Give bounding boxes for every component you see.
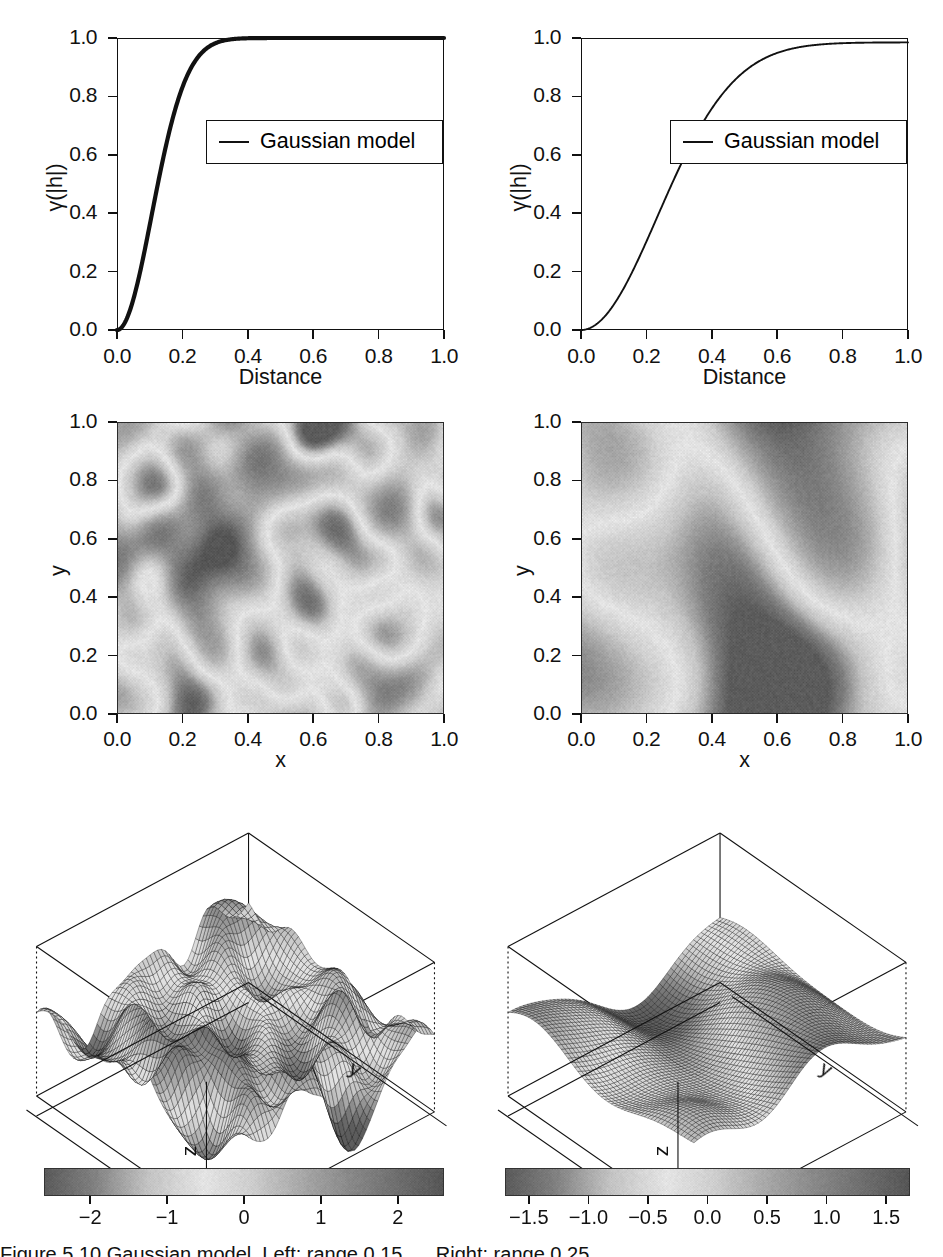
- colorbar-tick-mark: [885, 1196, 886, 1204]
- colorbar-tick-mark: [397, 1196, 398, 1204]
- variogram-left-panel: Gaussian model Distance γ(|h|) 0.00.20.4…: [0, 0, 471, 400]
- colorbar-tick-mark: [707, 1196, 708, 1204]
- x-axis-title: x: [117, 748, 444, 773]
- y-tick-label: 0.6: [499, 526, 561, 550]
- x-tick-mark: [776, 714, 778, 723]
- x-tick-label: 1.0: [872, 344, 943, 368]
- x-tick-label: 0.4: [676, 727, 748, 751]
- colorbar-tick-mark: [320, 1196, 321, 1204]
- y-tick-mark: [108, 655, 117, 657]
- y-tick-label: 1.0: [35, 409, 97, 433]
- x-tick-mark: [907, 330, 909, 339]
- x-tick-label: 0.6: [741, 727, 813, 751]
- y-tick-mark: [108, 37, 117, 39]
- x-tick-mark: [378, 330, 380, 339]
- y-tick-label: 0.4: [35, 200, 97, 224]
- x-tick-label: 0.0: [545, 727, 617, 751]
- x-tick-mark: [776, 330, 778, 339]
- x-tick-label: 0.6: [277, 344, 349, 368]
- variogram-line: [117, 38, 444, 330]
- x-tick-label: 0.8: [343, 344, 415, 368]
- colorbar-tick-mark: [166, 1196, 167, 1204]
- y-tick-label: 0.4: [499, 584, 561, 608]
- colorbar-tick-mark: [826, 1196, 827, 1204]
- y-tick-mark: [572, 655, 581, 657]
- y-tick-label: 0.6: [499, 142, 561, 166]
- x-tick-mark: [842, 714, 844, 723]
- x-tick-label: 0.8: [807, 727, 879, 751]
- x-tick-mark: [711, 330, 713, 339]
- x-tick-mark: [580, 714, 582, 723]
- legend-label: Gaussian model: [260, 131, 415, 153]
- x-tick-label: 0.6: [277, 727, 349, 751]
- y-tick-mark: [572, 421, 581, 423]
- variogram-line: [581, 42, 908, 330]
- colorbar-tick-label: 0: [204, 1206, 284, 1229]
- colorbar-tick-mark: [528, 1196, 529, 1204]
- y-tick-label: 0.0: [35, 317, 97, 341]
- y-tick-label: 0.0: [35, 701, 97, 725]
- colorbar-tick-label: 1.5: [846, 1206, 926, 1229]
- y-tick-label: 0.0: [499, 701, 561, 725]
- x-tick-mark: [580, 330, 582, 339]
- x-tick-mark: [711, 714, 713, 723]
- y-tick-mark: [108, 212, 117, 214]
- colorbar-tick-label: −2: [50, 1206, 130, 1229]
- x-tick-mark: [646, 330, 648, 339]
- y-tick-mark: [108, 480, 117, 482]
- y-tick-label: 1.0: [499, 25, 561, 49]
- x-tick-label: 0.4: [212, 727, 284, 751]
- y-tick-mark: [108, 596, 117, 598]
- colorbar-tick-label: 2: [358, 1206, 438, 1229]
- y-tick-mark: [572, 154, 581, 156]
- x-tick-mark: [907, 714, 909, 723]
- z-axis-title: z: [178, 1145, 202, 1156]
- x-tick-label: 0.4: [676, 344, 748, 368]
- x-tick-mark: [443, 714, 445, 723]
- surface-plot: [0, 790, 471, 1190]
- x-axis-title: Distance: [117, 365, 444, 390]
- y-tick-label: 0.2: [35, 259, 97, 283]
- x-tick-label: 0.2: [146, 344, 218, 368]
- legend-line-sample: [219, 141, 249, 143]
- legend-box: Gaussian model: [206, 120, 443, 164]
- colorbar-tick-mark: [766, 1196, 767, 1204]
- y-tick-label: 0.4: [499, 200, 561, 224]
- x-tick-label: 0.0: [81, 344, 153, 368]
- x-tick-mark: [116, 714, 118, 723]
- colorbar-tick-mark: [588, 1196, 589, 1204]
- x-tick-mark: [116, 330, 118, 339]
- y-tick-label: 0.8: [35, 467, 97, 491]
- x-tick-mark: [842, 330, 844, 339]
- x-tick-mark: [646, 714, 648, 723]
- variogram-right-panel: Gaussian model Distance γ(|h|) 0.00.20.4…: [471, 0, 943, 400]
- colorbar-left: [44, 1168, 444, 1196]
- heatmap-left-panel: x y 0.00.20.40.60.81.00.00.20.40.60.81.0: [0, 400, 471, 790]
- x-axis-title: Distance: [581, 365, 908, 390]
- z-axis-title: z: [649, 1145, 673, 1156]
- y-tick-mark: [572, 212, 581, 214]
- y-tick-label: 0.0: [499, 317, 561, 341]
- heatmap-right-panel: x y 0.00.20.40.60.81.00.00.20.40.60.81.0: [471, 400, 943, 790]
- surface-left-panel: x y z: [0, 790, 471, 1210]
- y-tick-mark: [572, 37, 581, 39]
- random-field-image: [581, 422, 908, 714]
- y-tick-label: 0.6: [35, 526, 97, 550]
- x-tick-mark: [378, 714, 380, 723]
- y-tick-mark: [108, 154, 117, 156]
- x-axis-title: x: [581, 748, 908, 773]
- x-tick-mark: [443, 330, 445, 339]
- surface-plot: [471, 790, 943, 1190]
- x-tick-label: 1.0: [408, 344, 480, 368]
- legend-label: Gaussian model: [724, 131, 879, 153]
- x-tick-label: 1.0: [872, 727, 943, 751]
- x-tick-label: 0.0: [545, 344, 617, 368]
- y-tick-mark: [108, 538, 117, 540]
- y-tick-label: 0.8: [499, 467, 561, 491]
- colorbar-tick-mark: [647, 1196, 648, 1204]
- x-tick-mark: [182, 714, 184, 723]
- colorbar-tick-mark: [89, 1196, 90, 1204]
- y-tick-label: 0.8: [35, 83, 97, 107]
- y-tick-mark: [108, 96, 117, 98]
